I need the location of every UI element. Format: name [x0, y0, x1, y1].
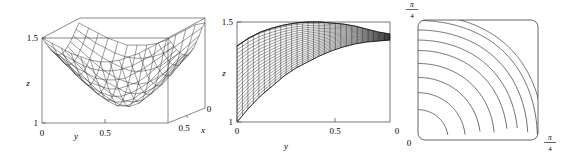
- panel1-x-origin-tick: 0: [207, 104, 212, 114]
- panel1-z-axis-label: z: [25, 78, 30, 88]
- panel2-y-mid-tick: 0.5: [329, 126, 341, 136]
- panel-3d-surface-plot: 1.5 1 z 0 0.5 y 0.5 x 0: [0, 0, 215, 165]
- panel2-z-axis-label: z: [221, 68, 226, 78]
- contour-lines: [418, 14, 543, 135]
- panel1-x-mid-tick: 0.5: [178, 123, 190, 133]
- panel1-z-bottom-tick: 1: [34, 118, 39, 128]
- contour-origin-tick: 0: [407, 138, 412, 148]
- contour-xmax-denominator: 4: [548, 145, 552, 153]
- panel1-y-origin-tick: 0: [40, 128, 45, 138]
- panel-edge-on-projection-plot: 1.5 1 z 0 0.5 y 0: [215, 0, 400, 165]
- panel1-y-mid-tick: 0.5: [99, 128, 111, 138]
- edge2d-mesh: [237, 22, 390, 122]
- panel2-z-bottom-tick: 1: [229, 117, 234, 127]
- contour-ytop-numerator: π: [410, 0, 414, 9]
- panel-contour-plot: π 4 0 π 4: [396, 0, 586, 165]
- panel2-y-axis-label: y: [283, 141, 288, 151]
- panel1-x-axis-label: x: [200, 125, 205, 135]
- contour-xmax-numerator: π: [548, 133, 552, 142]
- surface3d-mesh: [42, 23, 205, 106]
- panel1-z-top-tick: 1.5: [27, 33, 39, 43]
- contour-ytop-denominator: 4: [410, 12, 414, 20]
- contour-x-max-tick: π 4: [544, 133, 556, 153]
- panel2-z-top-tick: 1.5: [222, 17, 234, 27]
- surface3d-bounding-box: [42, 18, 205, 123]
- panel2-y-origin-tick: 0: [235, 126, 240, 136]
- panel1-y-axis-label: y: [73, 131, 78, 141]
- three-panel-math-figure: 1.5 1 z 0 0.5 y 0.5 x 0: [0, 0, 586, 165]
- contour-y-max-tick: π 4: [406, 0, 418, 20]
